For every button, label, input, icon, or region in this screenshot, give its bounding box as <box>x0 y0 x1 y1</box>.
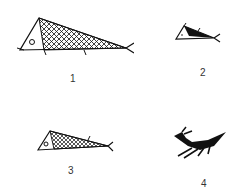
fish-figure-3 <box>34 128 114 156</box>
figure-label-2: 2 <box>200 67 206 78</box>
animal-figure-4 <box>170 126 230 160</box>
figure-plate: 1 2 3 4 <box>0 0 242 196</box>
figure-label-3: 3 <box>68 165 74 176</box>
figure-label-1: 1 <box>70 73 76 84</box>
figure-label-4: 4 <box>201 178 207 189</box>
fish-figure-1 <box>14 14 134 60</box>
fish-figure-2 <box>174 22 224 46</box>
